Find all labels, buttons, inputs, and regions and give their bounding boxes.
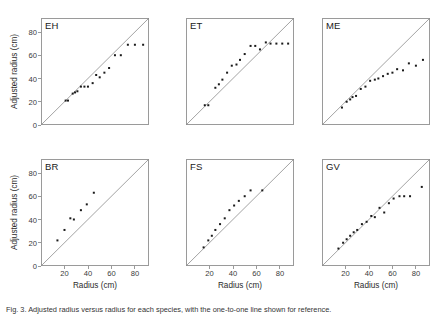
data-point bbox=[214, 87, 216, 89]
x-axis-tick-mark bbox=[415, 266, 416, 269]
one-to-one-reference-line bbox=[322, 159, 430, 266]
y-axis-tick-label: 40 bbox=[19, 215, 37, 224]
data-point bbox=[396, 68, 398, 70]
data-point bbox=[69, 217, 71, 219]
one-to-one-reference-line bbox=[41, 159, 149, 266]
panel-label-br: BR bbox=[45, 161, 59, 172]
data-point bbox=[374, 216, 376, 218]
y-axis-tick-label: 0 bbox=[19, 262, 37, 271]
data-point bbox=[388, 202, 390, 204]
x-axis-tick-mark bbox=[345, 266, 346, 269]
data-point bbox=[231, 65, 233, 67]
data-point bbox=[207, 104, 209, 106]
y-axis-tick-mark bbox=[38, 55, 41, 56]
data-point bbox=[235, 64, 237, 66]
data-point bbox=[203, 246, 205, 248]
data-point bbox=[239, 59, 241, 61]
data-point bbox=[93, 192, 95, 194]
data-point bbox=[349, 235, 351, 237]
data-point bbox=[72, 93, 74, 95]
one-to-one-reference-line bbox=[322, 18, 430, 125]
data-point bbox=[65, 100, 67, 102]
data-point bbox=[250, 45, 252, 47]
y-axis-tick-mark bbox=[38, 266, 41, 267]
data-point bbox=[114, 54, 116, 56]
scatter-panel-gv: GV20406080Radius (cm) bbox=[322, 159, 430, 266]
scatter-panel-eh: EH020406080Adjusted radius (cm) bbox=[41, 18, 149, 125]
panel-label-eh: EH bbox=[45, 20, 59, 31]
x-axis-tick-label: 40 bbox=[365, 269, 373, 278]
data-point bbox=[127, 44, 129, 46]
y-axis-tick-label: 0 bbox=[19, 121, 37, 130]
data-point bbox=[275, 43, 277, 45]
plot-area bbox=[186, 159, 294, 266]
x-axis-tick-label: 80 bbox=[276, 269, 284, 278]
data-point bbox=[76, 90, 78, 92]
data-point bbox=[218, 83, 220, 85]
data-point bbox=[393, 198, 395, 200]
data-point bbox=[346, 101, 348, 103]
data-point bbox=[67, 100, 69, 102]
x-axis-tick-label: 80 bbox=[412, 269, 420, 278]
data-point bbox=[207, 239, 209, 241]
data-point bbox=[214, 229, 216, 231]
y-axis-tick-mark bbox=[38, 242, 41, 243]
data-point bbox=[349, 98, 351, 100]
data-point bbox=[80, 209, 82, 211]
data-point bbox=[259, 48, 261, 50]
scatter-panel-br: BR02040608020406080Radius (cm)Adjusted r… bbox=[41, 159, 149, 266]
data-point bbox=[254, 45, 256, 47]
data-point bbox=[221, 79, 223, 81]
data-point bbox=[391, 72, 393, 74]
x-axis-tick-mark bbox=[369, 266, 370, 269]
panel-label-fs: FS bbox=[190, 161, 203, 172]
x-axis-tick-label: 80 bbox=[131, 269, 139, 278]
data-point bbox=[226, 72, 228, 74]
data-point bbox=[379, 207, 381, 209]
data-point bbox=[403, 195, 405, 197]
panel-label-me: ME bbox=[326, 20, 341, 31]
scatter-panel-et: ET bbox=[186, 18, 294, 125]
data-point bbox=[341, 107, 343, 109]
panel-label-et: ET bbox=[190, 20, 203, 31]
data-point bbox=[366, 221, 368, 223]
data-point bbox=[402, 69, 404, 71]
y-axis-tick-mark bbox=[38, 101, 41, 102]
data-point bbox=[120, 54, 122, 56]
data-point bbox=[86, 203, 88, 205]
y-axis-tick-label: 20 bbox=[19, 238, 37, 247]
data-point bbox=[342, 242, 344, 244]
x-axis-title: Radius (cm) bbox=[218, 281, 262, 290]
y-axis-tick-mark bbox=[38, 173, 41, 174]
x-axis-tick-mark bbox=[111, 266, 112, 269]
data-point bbox=[228, 209, 230, 211]
data-point bbox=[369, 80, 371, 82]
data-point bbox=[233, 205, 235, 207]
x-axis-tick-mark bbox=[209, 266, 210, 269]
data-point bbox=[409, 195, 411, 197]
y-axis-tick-mark bbox=[38, 32, 41, 33]
one-to-one-reference-line bbox=[41, 18, 149, 125]
data-point bbox=[361, 223, 363, 225]
y-axis-tick-mark bbox=[38, 125, 41, 126]
data-point bbox=[244, 195, 246, 197]
data-point bbox=[74, 91, 76, 93]
data-point bbox=[238, 200, 240, 202]
x-axis-title: Radius (cm) bbox=[354, 281, 398, 290]
data-point bbox=[355, 95, 357, 97]
data-point bbox=[80, 86, 82, 88]
plot-area bbox=[322, 18, 430, 125]
x-axis-tick-mark bbox=[279, 266, 280, 269]
data-point bbox=[383, 212, 385, 214]
panel-label-gv: GV bbox=[326, 161, 340, 172]
x-axis-tick-label: 60 bbox=[107, 269, 115, 278]
x-axis-tick-label: 40 bbox=[229, 269, 237, 278]
data-point bbox=[374, 79, 376, 81]
x-axis-tick-label: 40 bbox=[84, 269, 92, 278]
data-point bbox=[261, 189, 263, 191]
data-point bbox=[270, 43, 272, 45]
data-point bbox=[250, 189, 252, 191]
plot-area bbox=[186, 18, 294, 125]
y-axis-tick-mark bbox=[38, 196, 41, 197]
data-point bbox=[63, 229, 65, 231]
